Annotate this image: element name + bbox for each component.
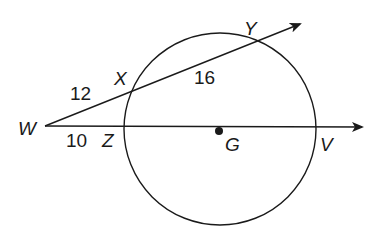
label-point-x: X bbox=[113, 68, 128, 89]
label-point-y: Y bbox=[244, 18, 258, 39]
ray-wv bbox=[45, 126, 362, 127]
label-point-z: Z bbox=[101, 130, 115, 151]
label-point-v: V bbox=[320, 134, 335, 155]
ray-wy bbox=[45, 24, 300, 126]
secant-diagram: W X Y Z G V 12 16 10 bbox=[0, 0, 378, 233]
label-point-g: G bbox=[225, 134, 240, 155]
label-segment-wz: 10 bbox=[66, 130, 87, 151]
label-segment-wx: 12 bbox=[70, 83, 91, 104]
label-point-w: W bbox=[18, 118, 38, 139]
label-segment-xy: 16 bbox=[194, 67, 215, 88]
center-point-g bbox=[215, 127, 223, 135]
